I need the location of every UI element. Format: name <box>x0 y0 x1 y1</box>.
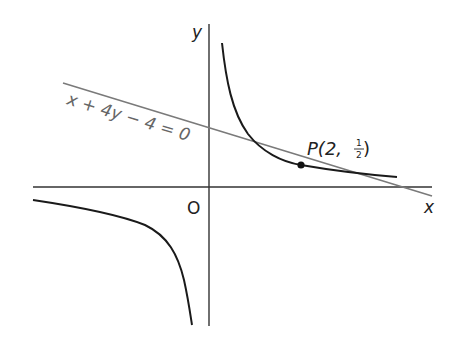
point-p-label-prefix: P(2, <box>307 138 342 159</box>
point-p-marker <box>297 161 304 168</box>
point-p-frac-num: 1 <box>356 138 362 148</box>
diagram-canvas: y x O x + 4y − 4 = 0 P(2, 1 2 ) <box>0 0 460 344</box>
tangent-line <box>63 83 432 196</box>
origin-label: O <box>187 198 200 218</box>
point-p-label: P(2, 1 2 ) <box>307 138 370 160</box>
point-p-label-suffix: ) <box>363 138 370 159</box>
point-p-frac-den: 2 <box>356 150 362 160</box>
y-axis-label: y <box>191 22 203 42</box>
hyperbola-left-branch <box>33 200 192 325</box>
x-axis-label: x <box>423 197 435 217</box>
